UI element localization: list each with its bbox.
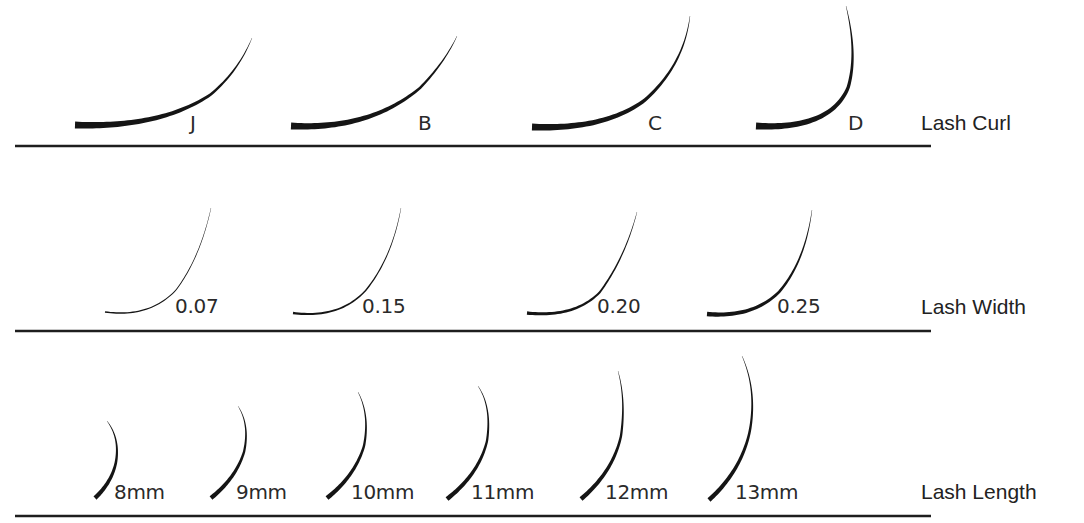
lash-curl-c: C [532, 16, 690, 135]
lash-length-12mm: 12mm [580, 371, 669, 504]
lash-label: B [418, 111, 431, 135]
row-lash-length: 8mm 9mm 10mm 11mm 12mm 13mm Lash Length [15, 356, 1037, 516]
lash-curve-icon [532, 16, 690, 131]
lash-length-13mm: 13mm [707, 356, 798, 504]
lash-width-025: 0.25 [707, 210, 821, 318]
lash-length-10mm: 10mm [326, 392, 415, 504]
lash-length-9mm: 9mm [210, 406, 287, 504]
row-lash-width: 0.07 0.15 0.20 0.25 Lash Width [15, 208, 1026, 331]
lash-curl-d: D [756, 6, 863, 135]
lash-width-007: 0.07 [105, 208, 218, 318]
lash-label: 12mm [605, 480, 668, 504]
lash-label: 0.15 [362, 294, 405, 318]
lash-curve-icon [291, 36, 457, 130]
row-title-curl: Lash Curl [921, 111, 1011, 134]
lash-label: 0.20 [597, 294, 640, 318]
row-lash-curl: J B C D Lash Curl [15, 6, 1011, 146]
lash-curve-icon [756, 6, 854, 130]
lash-specification-diagram: J B C D Lash Curl 0.07 0.15 0.20 [0, 0, 1084, 523]
row-title-length: Lash Length [921, 480, 1037, 503]
lash-width-020: 0.20 [527, 212, 641, 318]
lash-width-015: 0.15 [293, 208, 405, 318]
lash-label: 0.25 [777, 294, 820, 318]
lash-label: 8mm [114, 480, 165, 504]
lash-label: 13mm [735, 480, 798, 504]
lash-label: 10mm [351, 480, 414, 504]
lash-length-11mm: 11mm [446, 386, 535, 504]
row-title-width: Lash Width [921, 295, 1026, 318]
lash-label: 9mm [236, 480, 287, 504]
lash-label: J [188, 111, 196, 135]
lash-curl-b: B [291, 36, 457, 135]
lash-label: 0.07 [175, 294, 218, 318]
lash-label: 11mm [471, 480, 534, 504]
lash-label: D [848, 111, 863, 135]
lash-length-8mm: 8mm [93, 421, 164, 504]
lash-curl-j: J [75, 38, 252, 135]
lash-curve-icon [75, 38, 252, 129]
lash-label: C [648, 111, 662, 135]
